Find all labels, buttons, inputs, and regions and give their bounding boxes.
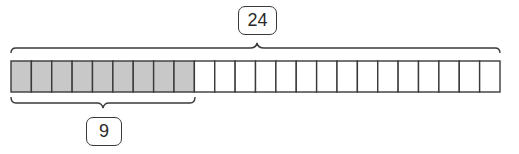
shaded-cell: [113, 61, 133, 92]
unshaded-cell: [337, 61, 357, 92]
shaded-cell: [174, 61, 194, 92]
unshaded-cell: [439, 61, 459, 92]
unshaded-cell: [317, 61, 337, 92]
shaded-cell: [11, 61, 31, 92]
unshaded-cell: [276, 61, 296, 92]
unshaded-cell: [459, 61, 479, 92]
total-label: 24: [238, 6, 277, 35]
part-brace: [11, 97, 195, 108]
unshaded-cell: [235, 61, 255, 92]
unshaded-cell: [215, 61, 235, 92]
unshaded-cell: [194, 61, 214, 92]
unshaded-cell: [398, 61, 418, 92]
unshaded-cell: [357, 61, 377, 92]
shaded-cell: [31, 61, 51, 92]
shaded-cell: [52, 61, 72, 92]
unshaded-cell: [256, 61, 276, 92]
unshaded-cell: [480, 61, 500, 92]
shaded-cell: [133, 61, 153, 92]
shaded-cell: [154, 61, 174, 92]
shaded-cell: [72, 61, 92, 92]
part-label: 9: [86, 117, 122, 146]
unshaded-cell: [296, 61, 316, 92]
unshaded-cell: [419, 61, 439, 92]
shaded-cell: [93, 61, 113, 92]
total-brace: [11, 43, 500, 53]
tape-cells: [11, 61, 500, 92]
unshaded-cell: [378, 61, 398, 92]
